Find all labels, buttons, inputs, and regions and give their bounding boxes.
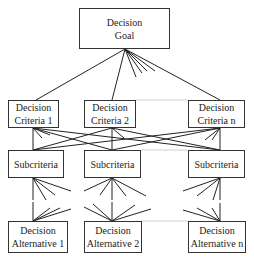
- subcriteria-1-label: Subcriteria: [14, 158, 58, 171]
- goal-box: Decision Goal: [79, 8, 170, 49]
- alternative-1-line2: Alternative 1: [12, 237, 64, 250]
- criteria-box-2: Decision Criteria 2: [84, 100, 136, 128]
- subcriteria-box-2: Subcriteria: [84, 150, 141, 178]
- goal-line2: Goal: [115, 29, 134, 42]
- alternative-box-n: Decision Alternative n: [188, 221, 246, 253]
- goal-line1: Decision: [107, 16, 143, 29]
- criteria-box-n: Decision Criteria n: [188, 100, 245, 128]
- alternative-2-line1: Decision: [95, 224, 131, 237]
- alternative-box-1: Decision Alternative 1: [8, 221, 68, 253]
- criteria-1-line2: Criteria 1: [14, 114, 52, 127]
- criteria-box-1: Decision Criteria 1: [8, 100, 59, 128]
- criteria-2-line2: Criteria 2: [91, 114, 129, 127]
- alternative-1-line1: Decision: [20, 224, 56, 237]
- alternative-box-2: Decision Alternative 2: [84, 221, 142, 253]
- criteria-n-line1: Decision: [199, 101, 235, 114]
- alternative-2-line2: Alternative 2: [87, 237, 139, 250]
- subcriteria-box-n: Subcriteria: [188, 150, 245, 178]
- alternative-n-line2: Alternative n: [191, 237, 243, 250]
- subcriteria-2-label: Subcriteria: [91, 158, 135, 171]
- subcriteria-n-label: Subcriteria: [195, 158, 239, 171]
- criteria-n-line2: Criteria n: [197, 114, 235, 127]
- criteria-1-line1: Decision: [16, 101, 52, 114]
- subcriteria-box-1: Subcriteria: [8, 150, 64, 178]
- criteria-2-line1: Decision: [92, 101, 128, 114]
- alternative-n-line1: Decision: [199, 224, 235, 237]
